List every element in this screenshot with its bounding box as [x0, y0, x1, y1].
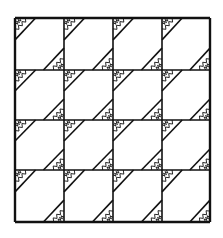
zigzag-hatch: [102, 59, 113, 70]
quilt-figure: [0, 0, 223, 238]
zigzag-hatch: [102, 211, 113, 222]
zigzag-hatch: [162, 170, 173, 181]
zigzag-hatch: [53, 59, 64, 70]
zigzag-hatch: [113, 120, 124, 131]
zigzag-hatch: [15, 120, 26, 131]
zigzag-hatch: [64, 18, 75, 29]
zigzag-hatch: [15, 70, 26, 81]
zigzag-hatch: [151, 59, 162, 70]
zigzag-hatch: [64, 120, 75, 131]
zigzag-hatch: [162, 120, 173, 131]
zigzag-hatch: [162, 70, 173, 81]
zigzag-hatch: [15, 18, 26, 29]
zigzag-hatch: [199, 109, 210, 120]
zigzag-hatch: [113, 170, 124, 181]
zigzag-hatch: [113, 18, 124, 29]
zigzag-hatch: [199, 159, 210, 170]
zigzag-hatch: [15, 170, 26, 181]
zigzag-hatch: [113, 70, 124, 81]
zigzag-hatch: [151, 159, 162, 170]
zigzag-hatch: [102, 109, 113, 120]
zigzag-hatch: [53, 109, 64, 120]
zigzag-hatch: [102, 159, 113, 170]
zigzag-hatch: [64, 70, 75, 81]
zigzag-hatch: [53, 211, 64, 222]
zigzag-hatch: [151, 109, 162, 120]
zigzag-hatch: [199, 211, 210, 222]
zigzag-hatch: [162, 18, 173, 29]
zigzag-hatch: [53, 159, 64, 170]
zigzag-hatch: [151, 211, 162, 222]
zigzag-hatch: [199, 59, 210, 70]
zigzag-hatch: [64, 170, 75, 181]
